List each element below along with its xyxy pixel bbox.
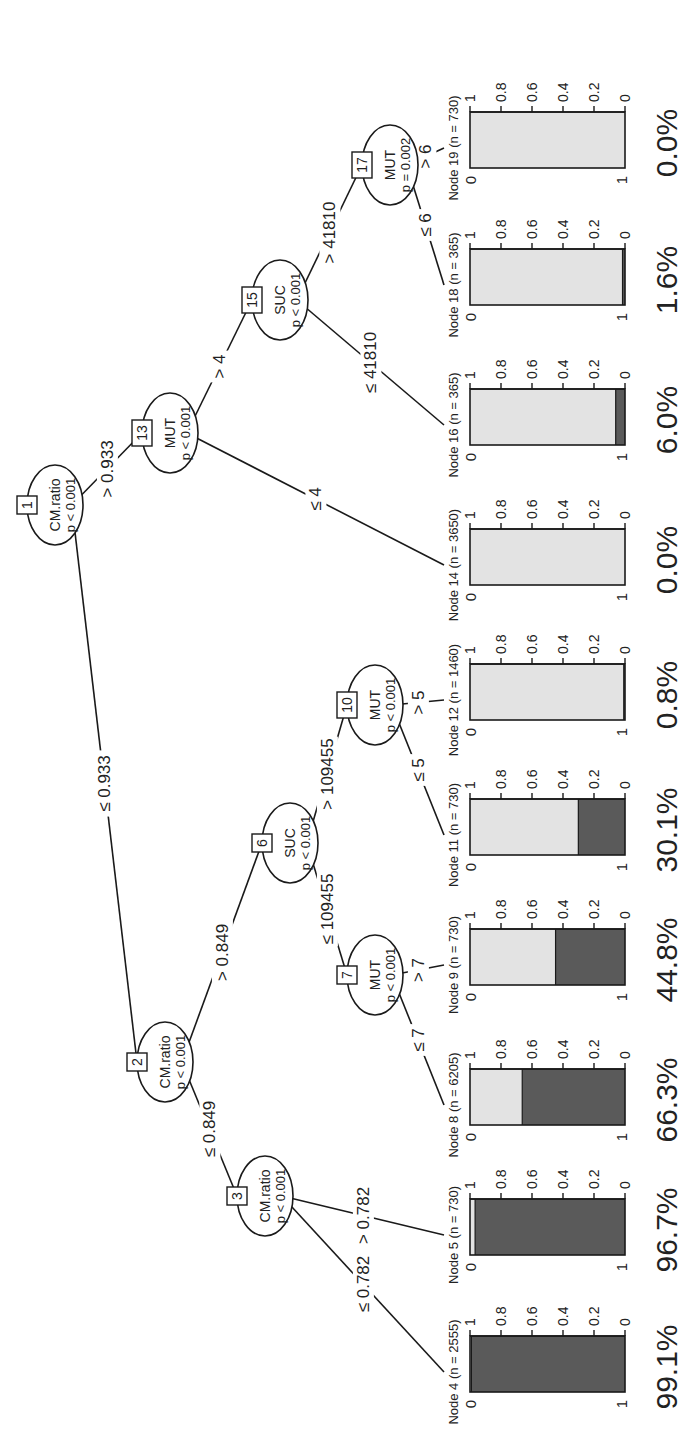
axis-tick-label: 0.4 bbox=[555, 1306, 571, 1326]
p-value: p < 0.001 bbox=[178, 406, 193, 461]
edge-label: > 41810 bbox=[319, 199, 340, 265]
axis-tick-label: 0.6 bbox=[524, 1306, 540, 1326]
p-value: p = 0.002 bbox=[398, 138, 413, 193]
axis-tick-label: 1 bbox=[462, 231, 478, 239]
edge-label: > 109455 bbox=[317, 737, 338, 812]
axis-tick-label: 0 bbox=[617, 511, 633, 519]
bar-class-1 bbox=[471, 1336, 625, 1392]
edge-label: ≤ 0.849 bbox=[199, 1096, 220, 1162]
axis-tick-label: 0.2 bbox=[586, 1039, 602, 1059]
category-1-label: 1 bbox=[613, 176, 630, 184]
split-variable: SUC bbox=[272, 285, 288, 315]
edge-label: ≤ 109455 bbox=[317, 872, 338, 947]
edge-label: > 5 bbox=[408, 687, 429, 719]
edge-label: ≤ 41810 bbox=[360, 329, 381, 395]
inner-node-7: 7MUTp < 0.001 bbox=[337, 935, 403, 1015]
terminal-label: Node 12 (n = 1460) bbox=[446, 644, 461, 756]
svg-text:> 0.782: > 0.782 bbox=[354, 1187, 373, 1244]
category-0-label: 0 bbox=[462, 176, 479, 184]
edge-label: ≤ 0.782 bbox=[353, 1251, 374, 1317]
axis-tick-label: 1 bbox=[462, 646, 478, 654]
terminal-label: Node 4 (n = 2555) bbox=[446, 1319, 461, 1424]
svg-text:> 6: > 6 bbox=[416, 144, 435, 168]
axis-tick-label: 0.8 bbox=[493, 219, 509, 239]
node-id: 17 bbox=[354, 157, 370, 173]
svg-text:> 4: > 4 bbox=[210, 354, 229, 378]
percentage-label: 1.6% bbox=[650, 246, 683, 314]
terminal-node-19: Node 19 (n = 730)0100.20.40.60.810.0% bbox=[446, 82, 683, 200]
node-id: 1 bbox=[19, 501, 35, 509]
category-1-label: 1 bbox=[613, 593, 630, 601]
terminal-label: Node 9 (n = 730) bbox=[446, 916, 461, 1014]
category-1-label: 1 bbox=[613, 453, 630, 461]
bar-class-1 bbox=[475, 1199, 625, 1255]
p-value: p < 0.001 bbox=[288, 273, 303, 328]
percentage-label: 99.1% bbox=[650, 1324, 683, 1409]
axis-tick-label: 0.4 bbox=[555, 1169, 571, 1189]
axis-tick-label: 0 bbox=[617, 1181, 633, 1189]
edge-label: ≤ 0.933 bbox=[94, 750, 115, 816]
axis-tick-label: 0 bbox=[617, 371, 633, 379]
axis-tick-label: 0.8 bbox=[493, 82, 509, 102]
split-variable: CM.ratio bbox=[257, 1169, 273, 1222]
terminal-node-12: Node 12 (n = 1460)0100.20.40.60.810.8% bbox=[446, 634, 683, 756]
terminal-label: Node 11 (n = 730) bbox=[446, 783, 461, 887]
axis-tick-label: 0.6 bbox=[524, 499, 540, 519]
p-value: p < 0.001 bbox=[383, 948, 398, 1003]
axis-tick-label: 1 bbox=[462, 1181, 478, 1189]
axis-tick-label: 0.4 bbox=[555, 219, 571, 239]
axis-tick-label: 0.8 bbox=[493, 1039, 509, 1059]
split-variable: MUT bbox=[382, 149, 398, 180]
edge-label: > 0.782 bbox=[353, 1182, 374, 1248]
axis-tick-label: 0.2 bbox=[586, 219, 602, 239]
axis-tick-label: 0.6 bbox=[524, 359, 540, 379]
category-0-label: 0 bbox=[462, 453, 479, 461]
svg-text:> 41810: > 41810 bbox=[320, 202, 339, 264]
category-1-label: 1 bbox=[613, 313, 630, 321]
inner-node-13: 13MUTp < 0.001 bbox=[132, 393, 198, 473]
split-variable: CM.ratio bbox=[47, 478, 63, 531]
axis-tick-label: 0 bbox=[617, 781, 633, 789]
bar-class-0 bbox=[470, 929, 556, 985]
axis-tick-label: 0.8 bbox=[493, 899, 509, 919]
decision-tree-figure: ≤ 0.933> 0.933≤ 0.849> 0.849≤ 0.782> 0.7… bbox=[0, 0, 695, 1448]
axis-tick-label: 0.4 bbox=[555, 359, 571, 379]
terminal-node-14: Node 14 (n = 3650)0100.20.40.60.810.0% bbox=[446, 499, 683, 621]
terminal-label: Node 14 (n = 3650) bbox=[446, 509, 461, 621]
axis-tick-label: 0 bbox=[617, 646, 633, 654]
axis-tick-label: 1 bbox=[462, 781, 478, 789]
edge-label: ≤ 5 bbox=[408, 754, 429, 786]
axis-tick-label: 1 bbox=[462, 1318, 478, 1326]
percentage-label: 0.0% bbox=[650, 109, 683, 177]
bar-class-0 bbox=[470, 112, 625, 168]
inner-node-6: 6SUCp < 0.001 bbox=[252, 803, 318, 883]
axis-tick-label: 0.2 bbox=[586, 1169, 602, 1189]
terminal-label: Node 8 (n = 6205) bbox=[446, 1052, 461, 1157]
svg-text:> 109455: > 109455 bbox=[318, 738, 337, 809]
inner-node-2: 2CM.ratiop < 0.001 bbox=[127, 1022, 193, 1102]
axis-tick-label: 1 bbox=[462, 911, 478, 919]
bar-class-0 bbox=[470, 529, 625, 585]
axis-tick-label: 0.4 bbox=[555, 634, 571, 654]
svg-text:> 0.933: > 0.933 bbox=[98, 440, 117, 497]
edge-label: > 7 bbox=[408, 954, 429, 986]
p-value: p < 0.001 bbox=[298, 816, 313, 871]
p-value: p < 0.001 bbox=[273, 1169, 288, 1224]
p-value: p < 0.001 bbox=[383, 678, 398, 733]
terminal-label: Node 16 (n = 365) bbox=[446, 372, 461, 477]
node-id: 2 bbox=[129, 1058, 145, 1066]
node-id: 6 bbox=[254, 839, 270, 847]
terminal-node-16: Node 16 (n = 365)0100.20.40.60.816.0% bbox=[446, 359, 683, 477]
svg-text:≤ 7: ≤ 7 bbox=[409, 1028, 428, 1052]
terminal-node-9: Node 9 (n = 730)0100.20.40.60.8144.8% bbox=[446, 899, 683, 1014]
axis-tick-label: 0.6 bbox=[524, 769, 540, 789]
bar-class-0 bbox=[470, 249, 623, 305]
node-id: 10 bbox=[339, 697, 355, 713]
category-1-label: 1 bbox=[613, 993, 630, 1001]
axis-tick-label: 0.6 bbox=[524, 82, 540, 102]
terminal-node-8: Node 8 (n = 6205)0100.20.40.60.8166.3% bbox=[446, 1039, 683, 1157]
inner-node-15: 15SUCp < 0.001 bbox=[242, 260, 308, 340]
terminal-node-18: Node 18 (n = 365)0100.20.40.60.811.6% bbox=[446, 219, 683, 337]
axis-tick-label: 0 bbox=[617, 911, 633, 919]
edge-label: > 0.933 bbox=[97, 436, 118, 502]
